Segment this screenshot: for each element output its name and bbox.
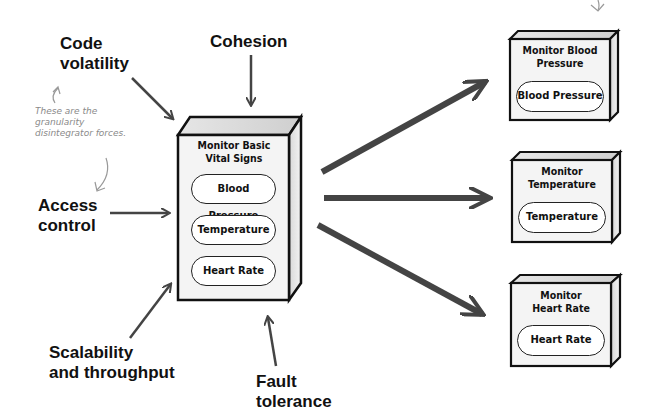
main-component-blood-pressure: Blood Pressure [191, 174, 276, 204]
arrow-code-volatility-icon [132, 78, 172, 118]
force-fault-tolerance: Fault tolerance [256, 372, 332, 412]
arrow-to-heart-rate-icon [318, 225, 482, 314]
annotation-note: These are the granularity disintegrator … [35, 106, 126, 139]
arrow-scalability-icon [130, 285, 170, 338]
split-arrows [318, 82, 489, 314]
split-component-heart-rate: Heart Rate [517, 325, 605, 356]
force-cohesion: Cohesion [210, 32, 287, 52]
arrow-to-blood-pressure-icon [322, 82, 485, 172]
split-service-blood-pressure-title: Monitor Blood Pressure [512, 44, 608, 70]
split-service-temperature-title: Monitor Temperature [514, 165, 610, 191]
note-arrow-down-icon [97, 158, 108, 190]
force-access-control: Access control [38, 196, 98, 236]
main-component-temperature: Temperature [191, 215, 276, 245]
split-component-blood-pressure: Blood Pressure [516, 81, 604, 112]
split-service-heart-rate-title: Monitor Heart Rate [513, 289, 609, 315]
force-scalability-throughput: Scalability and throughput [49, 343, 175, 383]
force-code-volatility: Code volatility [60, 34, 129, 74]
arrow-fault-tolerance-icon [268, 318, 276, 366]
main-service-title: Monitor Basic Vital Signs [180, 139, 288, 165]
main-component-heart-rate: Heart Rate [191, 256, 276, 286]
split-component-temperature: Temperature [518, 202, 606, 233]
